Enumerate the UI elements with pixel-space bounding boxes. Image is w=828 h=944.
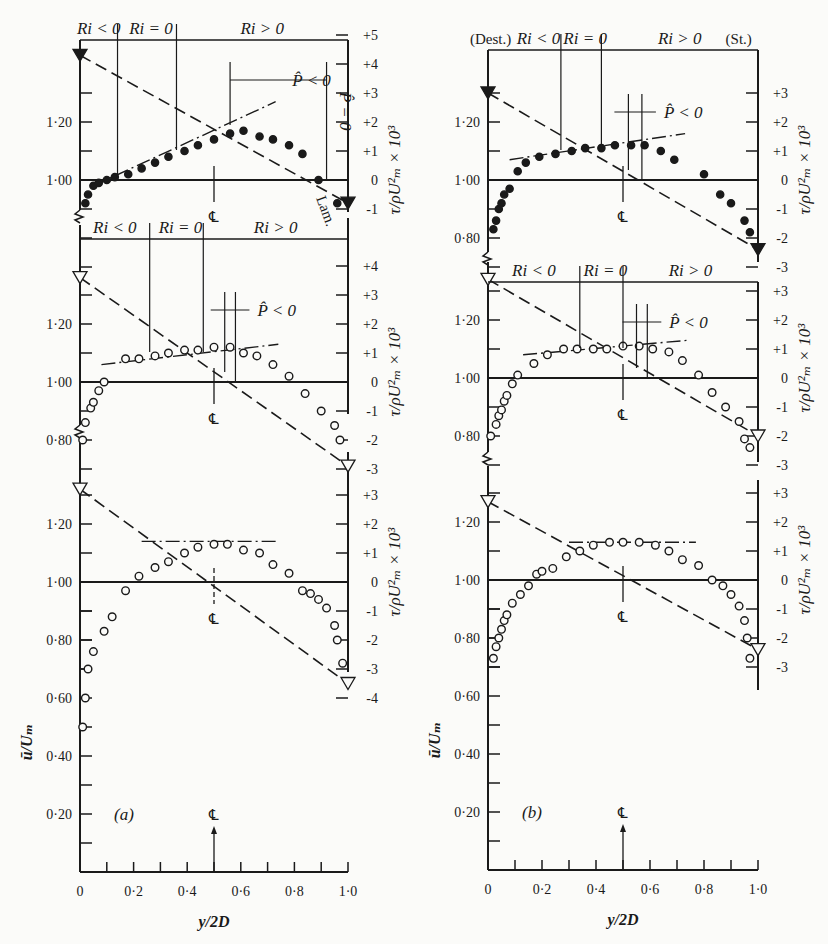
x-tick-label: 1·0 [749,882,768,897]
y-tick-label-right: +1 [773,544,788,559]
y-tick-label: 1·20 [46,517,72,532]
panel-label: (b) [522,803,542,822]
y-tick-label-right: +4 [363,259,378,274]
y-tick-label-right: -2 [776,429,788,444]
data-point [700,171,707,178]
data-point [522,159,529,166]
ri-pos-label: Ri > 0 [657,29,702,48]
shear-stress-line [80,489,348,683]
panel-label: (a) [114,805,134,824]
y-tick-label-right: -1 [366,604,378,619]
y-tick-label: 0·80 [454,231,480,246]
y-tick-label-right: -3 [776,660,788,675]
data-point [498,406,506,414]
data-point [100,628,108,636]
data-point [563,553,571,561]
data-point [498,200,505,207]
y-tick-label-right: +1 [773,342,788,357]
figure-canvas: 00·20·40·60·81·0y/2D℄(a)0·200·400·60ū/Uₘ… [0,0,828,944]
data-point [90,648,98,656]
data-point [84,665,92,673]
data-point [727,200,734,207]
y-tick-label-right: +4 [363,57,378,72]
st-label: (St.) [726,31,752,48]
data-point [317,407,325,415]
data-point [741,217,748,224]
y-axis-title-left: ū/Uₘ [426,722,443,759]
dest-label: (Dest.) [470,31,511,48]
data-point [679,556,687,564]
data-point [181,147,188,154]
data-point [165,153,172,160]
y-tick-label-right: -3 [776,260,788,275]
y-tick-label-right: +3 [773,486,788,501]
data-point [619,539,627,547]
y-axis-title-right: τ/ρU²ₘ × 10³ [795,525,814,615]
data-point [253,352,261,360]
x-axis-title: y/2D [196,913,230,931]
y-axis-title-right: τ/ρU²ₘ × 10³ [385,327,404,417]
y-tick-label: 0·80 [454,429,480,444]
data-point [339,659,347,667]
centerline-label: ℄ [617,609,628,625]
data-point [181,549,189,557]
data-point [735,418,743,426]
data-point [635,539,643,547]
y-tick-label-right: +2 [773,313,788,328]
data-point [269,361,277,369]
data-point [590,541,598,549]
y-tick-label-right: -2 [776,631,788,646]
data-point [138,165,145,172]
y-tick-label-right: +1 [773,144,788,159]
data-point [240,127,247,134]
y-tick-label-right: +3 [363,288,378,303]
y-tick-label: 0·80 [454,631,480,646]
data-point [122,587,130,595]
data-point [560,345,568,353]
y-tick-label-right: +1 [363,346,378,361]
data-point [606,539,614,547]
data-point [719,582,727,590]
y-tick-label-right: +1 [363,546,378,561]
data-point [135,572,143,580]
y-tick-label: 0·40 [454,747,480,762]
arrow-head-icon [620,824,626,832]
data-point [84,191,91,198]
data-point [122,355,130,363]
data-point [194,543,202,551]
data-point [165,558,173,566]
y-axis-title-right: τ/ρU²ₘ × 10³ [795,125,814,215]
y-tick-label-right: 0 [371,375,378,390]
data-point [746,229,753,236]
data-point [503,392,511,400]
data-point [299,587,307,595]
data-point [269,561,277,569]
y-axis-title-right: τ/ρU²ₘ × 10³ [385,125,404,215]
data-point [90,399,98,407]
y-tick-label: 1·00 [46,575,72,590]
y-tick-label: 0·20 [454,805,480,820]
y-tick-label-right: 0 [781,573,788,588]
y-axis-title-left: ū/Uₘ [18,724,35,761]
data-point [582,145,589,152]
data-point [240,546,248,554]
data-point [301,390,309,398]
data-point [657,147,664,154]
shear-stress-line [80,278,348,467]
centerline-label: ℄ [208,611,219,627]
data-point [509,380,517,388]
data-point [509,599,517,607]
y-tick-label: 1·20 [454,313,480,328]
y-tick-label: 0·80 [46,633,72,648]
y-tick-label-right: -1 [776,400,788,415]
data-point [79,436,87,444]
x-tick-label: 0·2 [533,882,552,897]
data-point [95,387,103,395]
data-point [576,547,584,555]
data-point [487,432,495,440]
triangle-marker-icon [341,678,355,690]
y-tick-label: 1·00 [46,375,72,390]
y-tick-label-right: +3 [363,488,378,503]
x-tick-label: 0·8 [695,882,714,897]
y-tick-label-right: -1 [776,602,788,617]
